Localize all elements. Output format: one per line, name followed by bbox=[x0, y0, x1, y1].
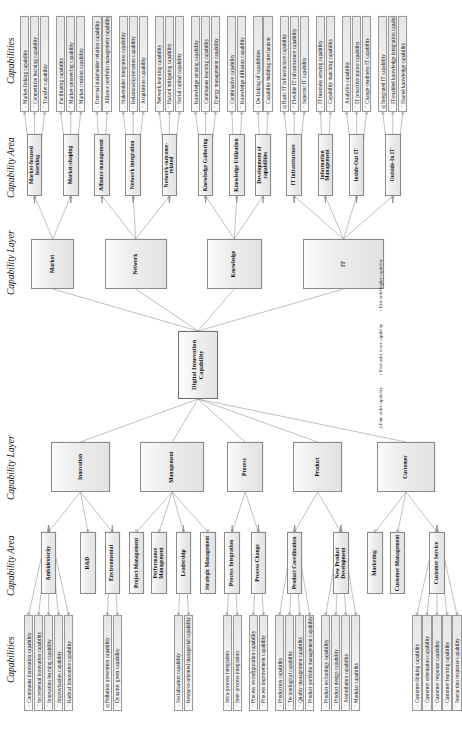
capability-marker-icon: ↑ bbox=[141, 105, 146, 109]
capability-leaf: ↓Combinative capability bbox=[227, 16, 236, 112]
capability-leaf: ↑Resource-oriented managerial capability bbox=[184, 615, 193, 711]
capability-marker-icon: ↑ bbox=[454, 704, 459, 708]
capability-leaf: ↑Innovation learning capability bbox=[44, 615, 53, 711]
capability-leaf: ↑Capability building mechanism bbox=[263, 16, 272, 112]
capability-area-node: Strategic Management bbox=[200, 532, 216, 594]
capability-label: Interaction response capability bbox=[454, 638, 460, 703]
header-capability-area-left: Capability Area bbox=[6, 536, 16, 596]
capability-area-node: Leadership bbox=[176, 532, 192, 594]
capability-marker-icon: ↑ bbox=[424, 704, 429, 708]
capability-marker-icon: ↑ bbox=[333, 704, 338, 708]
capability-leaf: ↑Shared knowledge capability bbox=[398, 16, 407, 112]
capability-marker-icon: ↑ bbox=[343, 704, 348, 708]
capability-label: Social capital capability bbox=[176, 53, 182, 104]
legend-label: First-order lower capability bbox=[378, 324, 383, 372]
capability-marker-icon: ↑ bbox=[239, 105, 244, 109]
legend-marker-icon: ◎ bbox=[378, 426, 383, 429]
capability-marker-icon: ↑ bbox=[186, 704, 191, 708]
capability-area-node: Inside-Out IT bbox=[349, 134, 365, 196]
core-node-digital-innovation-capability: Digital Innovation Capability bbox=[178, 331, 218, 399]
capability-leaf: ↑Technological capability bbox=[285, 615, 294, 711]
capability-marker-icon: ↓ bbox=[255, 105, 260, 109]
legend-marker-icon: ↑ bbox=[378, 310, 383, 312]
capability-leaf: ↓Product technology capability bbox=[321, 615, 330, 711]
capability-leaf: ↓Socialization capability bbox=[174, 615, 183, 711]
capability-layer-node: Process bbox=[227, 442, 263, 492]
capability-label: Flexible IT infrastructure capability bbox=[291, 28, 297, 104]
capability-label: Network learning capability bbox=[156, 45, 162, 104]
capability-label: Product technology capability bbox=[323, 639, 329, 703]
capability-label: Analytics capability bbox=[344, 61, 350, 104]
capability-label: Continuous learning capability bbox=[203, 39, 209, 104]
capability-label: Incremental innovation capability bbox=[36, 632, 42, 703]
capability-marker-icon: ◎ bbox=[104, 704, 110, 708]
capability-marker-icon: ↑ bbox=[287, 704, 292, 708]
capability-leaf: ↑Social capital capability bbox=[175, 16, 184, 112]
capability-leaf: ↑Customer orientation capability bbox=[422, 615, 431, 711]
capability-leaf: ↑Dynamic green capability bbox=[113, 615, 122, 711]
capability-area-node: Alliance management bbox=[94, 134, 110, 196]
capability-marker-icon: ↑ bbox=[42, 105, 47, 109]
capability-marker-icon: ↑ bbox=[115, 704, 120, 708]
legend-item: ↓First-order lower capability bbox=[378, 324, 383, 376]
capability-marker-icon: ↑ bbox=[167, 105, 172, 109]
capability-label: Socialization capability bbox=[175, 653, 181, 703]
capability-label: Continuous innovation capability bbox=[26, 632, 32, 703]
capability-label: Innovation learning capability bbox=[46, 639, 52, 703]
capability-leaf: ↑Customer response capability bbox=[432, 615, 441, 711]
capability-label: Change-readiness IT capability bbox=[364, 38, 370, 104]
capability-leaf: ↑Process improvement capability bbox=[259, 615, 268, 711]
capability-marker-icon: ↑ bbox=[364, 105, 369, 109]
capability-area-node: Project Management bbox=[129, 532, 145, 594]
capability-leaf: ↑Hazard mitigating capability bbox=[165, 16, 174, 112]
capability-marker-icon: ↑ bbox=[78, 105, 83, 109]
capability-layer-node: Knowledge bbox=[207, 239, 263, 289]
capability-leaf: ↑Network learning capability bbox=[155, 16, 164, 112]
capability-area-node: R&D bbox=[80, 532, 96, 594]
capability-layer-node: Network bbox=[105, 239, 167, 289]
capability-area-node: Process Change bbox=[251, 532, 267, 594]
capability-layer-node: Customer bbox=[377, 442, 435, 492]
capability-label: Competitive learning capability bbox=[32, 37, 38, 104]
legend-label: First-order higher capability bbox=[378, 259, 383, 309]
capability-area-node: Development of capabilities bbox=[255, 134, 271, 196]
capability-marker-icon: ↓ bbox=[277, 704, 282, 708]
legend: ◎Firm-order capability↓First-order lower… bbox=[378, 247, 383, 429]
capability-marker-icon: ↑ bbox=[32, 105, 37, 109]
capability-marker-icon: ↓ bbox=[414, 704, 419, 708]
capability-area-node: Market-focused learning bbox=[27, 134, 43, 196]
capability-leaf: ↑Process reconfiguration capability bbox=[249, 615, 258, 711]
capability-layer-node: Innovation bbox=[51, 442, 110, 492]
capability-leaf: ↑Competitive learning capability bbox=[30, 16, 39, 112]
capability-marker-icon: ↑ bbox=[213, 105, 218, 109]
capability-area-node: Customer Management bbox=[390, 532, 406, 594]
capability-label: Shared knowledge capability bbox=[400, 43, 406, 104]
capability-leaf: ↑Quality management capability bbox=[295, 615, 304, 711]
capability-label: Product design capability bbox=[333, 649, 339, 703]
capability-area-node: Network-outcome-related bbox=[162, 134, 178, 196]
capability-marker-icon: ↑ bbox=[131, 105, 136, 109]
capability-label: Radical innovative capability bbox=[66, 641, 72, 703]
capability-label: Production capability bbox=[277, 658, 283, 703]
capability-marker-icon: ↑ bbox=[400, 105, 405, 109]
capability-label: Customer learning capability bbox=[444, 642, 450, 704]
capability-label: Superior IT capability bbox=[301, 57, 307, 104]
capability-label: Basic IT infrastructure capability bbox=[281, 34, 287, 104]
capability-leaf: ↑Market-pioneering capability bbox=[66, 16, 75, 112]
capability-marker-icon: ↑ bbox=[353, 704, 358, 708]
capability-marker-icon: ↑ bbox=[235, 704, 240, 708]
capability-marker-icon: ↓ bbox=[193, 105, 198, 109]
capability-label: Product portfolio management capability bbox=[307, 616, 313, 703]
capability-label: Acquisition capability bbox=[140, 57, 146, 104]
capability-label: Capability matching capability bbox=[327, 39, 333, 104]
capability-label: Process reconfiguration capability bbox=[250, 631, 256, 703]
capability-marker-icon: ↑ bbox=[56, 704, 61, 708]
capability-marker-icon: ↑ bbox=[177, 105, 182, 109]
capability-layer-node: Market bbox=[31, 239, 73, 289]
capability-marker-icon: ↓ bbox=[94, 105, 99, 109]
capability-area-node: Knowledge Utilization bbox=[229, 134, 245, 196]
capability-marker-icon: ↑ bbox=[46, 704, 51, 708]
capability-leaf: ◎Integrated IT capability bbox=[378, 16, 387, 112]
capability-leaf: ◎Pollution prevention capability bbox=[103, 615, 112, 711]
capability-marker-icon: ↑ bbox=[265, 105, 270, 109]
